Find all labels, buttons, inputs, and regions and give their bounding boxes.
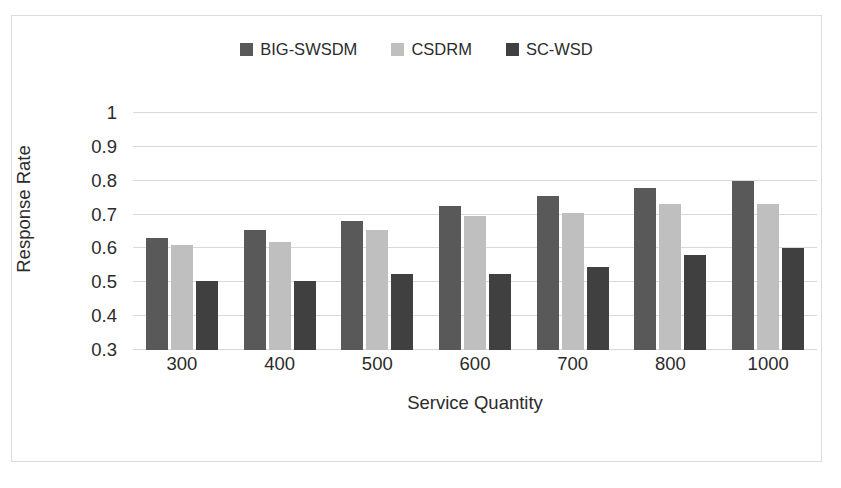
bar-groups: [133, 113, 817, 350]
y-axis-tick-labels: 0.30.40.50.60.70.80.91: [0, 113, 133, 350]
bar[interactable]: [244, 230, 266, 350]
legend-swatch-icon: [240, 43, 253, 56]
x-axis-tick-label: 600: [426, 353, 524, 383]
bar[interactable]: [146, 238, 168, 350]
bar[interactable]: [464, 216, 486, 350]
bar[interactable]: [196, 281, 218, 350]
y-axis-tick-label: 1: [107, 102, 117, 124]
legend-item-sc-wsd[interactable]: SC-WSD: [506, 41, 593, 58]
bar-group: [133, 113, 231, 350]
legend-label: CSDRM: [411, 41, 472, 58]
chart-legend: BIG-SWSDMCSDRMSC-WSD: [11, 36, 822, 62]
legend-label: BIG-SWSDM: [260, 41, 357, 58]
bar[interactable]: [366, 230, 388, 350]
bar[interactable]: [269, 242, 291, 350]
chart-figure: BIG-SWSDMCSDRMSC-WSD Response Rate 0.30.…: [0, 0, 841, 488]
x-axis-tick-labels: 3004005006007008001000: [133, 353, 817, 383]
y-axis-tick-label: 0.8: [91, 170, 117, 192]
x-axis-tick-label: 400: [231, 353, 329, 383]
x-axis-tick-label: 300: [133, 353, 231, 383]
bar[interactable]: [562, 213, 584, 350]
x-axis-tick-label: 1000: [719, 353, 817, 383]
legend-swatch-icon: [506, 43, 519, 56]
legend-item-csdrm[interactable]: CSDRM: [391, 41, 472, 58]
x-axis-tick-label: 800: [622, 353, 720, 383]
bar[interactable]: [757, 204, 779, 350]
legend-item-big-swsdm[interactable]: BIG-SWSDM: [240, 41, 357, 58]
bar[interactable]: [294, 281, 316, 350]
bar[interactable]: [489, 274, 511, 350]
bar-group: [622, 113, 720, 350]
bar[interactable]: [341, 221, 363, 350]
bar[interactable]: [587, 267, 609, 350]
bar[interactable]: [537, 196, 559, 350]
y-axis-tick-label: 0.4: [91, 305, 117, 327]
y-axis-tick-label: 0.7: [91, 204, 117, 226]
y-axis-tick-label: 0.5: [91, 271, 117, 293]
legend-label: SC-WSD: [526, 41, 593, 58]
bar[interactable]: [171, 245, 193, 350]
y-axis-tick-label: 0.3: [91, 339, 117, 361]
bar[interactable]: [391, 274, 413, 350]
bar[interactable]: [782, 248, 804, 350]
legend-swatch-icon: [391, 43, 404, 56]
bar-group: [426, 113, 524, 350]
y-axis-tick-label: 0.6: [91, 237, 117, 259]
bar[interactable]: [732, 181, 754, 350]
y-axis-tick-label: 0.9: [91, 136, 117, 158]
bar[interactable]: [439, 206, 461, 350]
x-axis-title: Service Quantity: [133, 392, 817, 414]
bar-group: [231, 113, 329, 350]
x-axis-tick-label: 500: [328, 353, 426, 383]
bar-group: [719, 113, 817, 350]
plot-area: [133, 113, 817, 350]
bar-group: [524, 113, 622, 350]
bar[interactable]: [634, 188, 656, 351]
bar-group: [328, 113, 426, 350]
bar[interactable]: [684, 255, 706, 350]
x-axis-tick-label: 700: [524, 353, 622, 383]
bar[interactable]: [659, 204, 681, 350]
